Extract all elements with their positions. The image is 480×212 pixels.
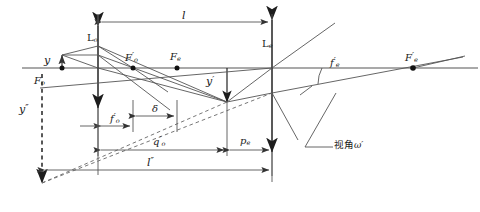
label-focal-eyepiece-front: Fe <box>170 52 181 63</box>
label-image-distance-objective: q′o <box>153 136 165 148</box>
ray-bundle-eyepiece <box>40 23 465 140</box>
label-focal-object-front: Fo <box>34 76 45 87</box>
label-focal-length-eyepiece: f′e <box>330 57 340 69</box>
view-angle-arc <box>300 68 322 95</box>
label-optical-interval: δ <box>152 104 158 114</box>
label-image-height: y′ <box>206 76 214 87</box>
label-objective-lens: Lo <box>87 33 98 44</box>
label-lens-separation: l <box>182 10 186 21</box>
dot-Fe-prime <box>410 65 416 71</box>
dim-total-distance <box>45 152 272 176</box>
label-view-angle: 视角ω′ <box>334 140 363 150</box>
label-total-distance: l″ <box>147 157 154 168</box>
label-focal-length-objective: f′o <box>110 113 120 125</box>
label-eyepiece-lens: Le <box>262 39 273 50</box>
dot-Fo-prime <box>131 66 136 71</box>
optical-ray-diagram <box>0 0 480 212</box>
dim-focal-objective <box>80 100 133 132</box>
label-object-height: y <box>44 55 50 66</box>
dot-Fo <box>60 66 65 71</box>
label-object-distance-eyepiece: pe <box>240 136 250 147</box>
figure-canvas: Lo Le y y′ y″ Fo F′o Fe F′e f′o f′e δ l … <box>0 0 480 212</box>
label-virtual-image-height: y″ <box>19 104 29 115</box>
dot-Fe <box>175 66 180 71</box>
view-angle-leader <box>305 93 336 147</box>
ray-bundle-objective <box>62 46 227 110</box>
label-focal-eyepiece-back: F′e <box>405 52 418 64</box>
label-focal-object-back: F′o <box>125 52 138 64</box>
